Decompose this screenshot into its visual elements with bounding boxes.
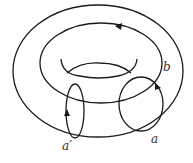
label-b: b [163,60,171,74]
torus-hole-lower-arc [67,63,131,73]
arrow-a-prime-icon [64,109,70,116]
label-a: a [151,132,158,146]
label-a-prime: a′ [62,139,72,153]
torus-outer-outline [13,5,183,137]
torus-diagram: b a a′ [0,0,193,163]
loop-a-prime [66,84,84,138]
arrow-a-icon [155,83,161,90]
